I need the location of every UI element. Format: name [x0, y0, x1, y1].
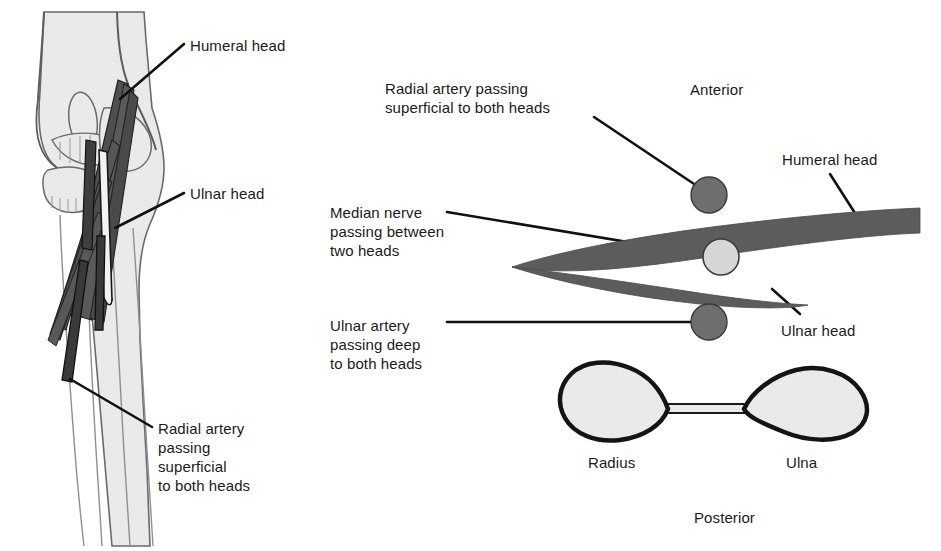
label-ulnar-head-right: Ulnar head [781, 321, 855, 340]
ulnar-artery-circle [691, 304, 727, 340]
interosseous-membrane [666, 404, 746, 413]
label-ulnar-artery-deep: Ulnar artery passing deep to both heads [330, 316, 422, 373]
label-anterior: Anterior [690, 80, 743, 99]
ulnar-artery-strip [95, 236, 105, 330]
label-radial-artery-superficial: Radial artery passing superficial to bot… [385, 79, 550, 117]
label-posterior: Posterior [694, 508, 755, 527]
label-humeral-head-left: Humeral head [190, 36, 285, 55]
label-radius: Radius [588, 453, 635, 472]
label-ulnar-head-left: Ulnar head [190, 184, 264, 203]
label-radial-artery-left: Radial artery passing superficial to bot… [158, 419, 250, 495]
label-median-nerve-between: Median nerve passing between two heads [330, 203, 444, 260]
anatomy-figure: Humeral head Ulnar head Radial artery pa… [0, 0, 941, 551]
radial-artery-circle [691, 177, 727, 213]
label-ulna: Ulna [786, 453, 817, 472]
label-humeral-head-right: Humeral head [782, 150, 877, 169]
median-nerve-circle [703, 239, 739, 275]
